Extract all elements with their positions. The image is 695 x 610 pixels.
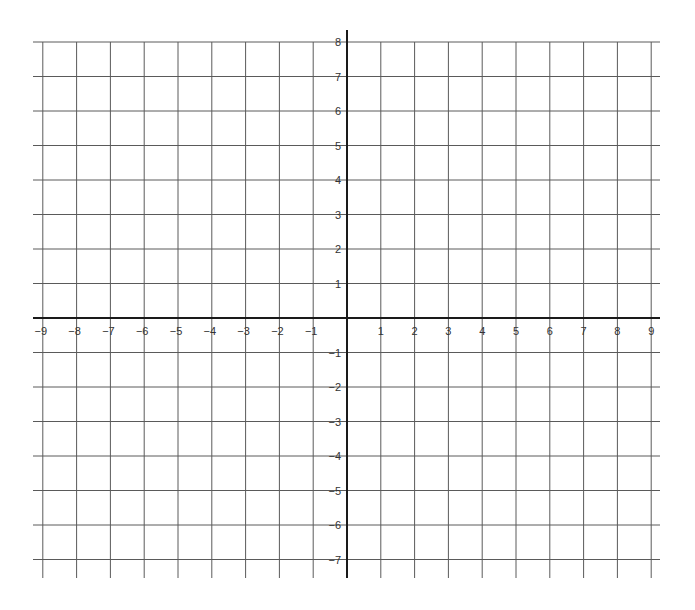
y-tick-label: −7 [328,554,341,566]
x-tick-label: −7 [102,325,115,337]
x-tick-label: 1 [378,325,384,337]
x-tick-label: 5 [513,325,519,337]
x-tick-label: −1 [305,325,318,337]
y-tick-label: 3 [335,209,341,221]
y-tick-label: 4 [335,174,341,186]
y-tick-label: −4 [328,450,341,462]
y-tick-label: −1 [328,347,341,359]
x-tick-label: −6 [136,325,149,337]
y-axis-labels: 87654321−1−2−3−4−5−6−7 [328,36,341,566]
x-axis-labels: −9−8−7−6−5−4−3−2−1123456789 [35,325,655,337]
x-tick-label: 4 [479,325,485,337]
y-tick-label: −2 [328,381,341,393]
y-tick-label: −6 [328,519,341,531]
x-tick-label: −9 [35,325,48,337]
y-tick-label: 1 [335,278,341,290]
x-tick-label: −2 [271,325,284,337]
x-tick-label: −5 [170,325,183,337]
x-tick-label: 8 [614,325,620,337]
x-tick-label: 2 [412,325,418,337]
x-tick-label: 7 [581,325,587,337]
x-tick-label: −3 [237,325,250,337]
x-tick-label: 9 [648,325,654,337]
y-tick-label: −5 [328,485,341,497]
y-tick-label: 6 [335,105,341,117]
x-tick-label: −4 [204,325,217,337]
x-tick-label: 6 [547,325,553,337]
x-tick-label: −8 [68,325,81,337]
x-tick-label: 3 [445,325,451,337]
coordinate-plane: −9−8−7−6−5−4−3−2−1123456789 87654321−1−2… [0,0,695,610]
axes [33,30,660,578]
y-tick-label: −3 [328,416,341,428]
y-tick-label: 5 [335,140,341,152]
y-tick-label: 8 [335,36,341,48]
y-tick-label: 7 [335,71,341,83]
y-tick-label: 2 [335,243,341,255]
